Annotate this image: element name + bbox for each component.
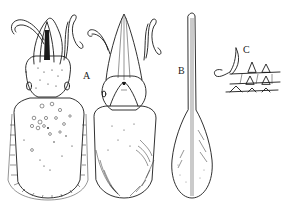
label-a: A (83, 71, 90, 81)
label-b: B (178, 66, 185, 76)
ventral-view (88, 14, 161, 198)
label-c: C (243, 45, 250, 55)
cuttlebone-view (172, 13, 213, 198)
illustration-svg (0, 0, 289, 210)
cuttlefish-illustration: A B C (0, 0, 289, 210)
dorsal-view (8, 15, 88, 200)
